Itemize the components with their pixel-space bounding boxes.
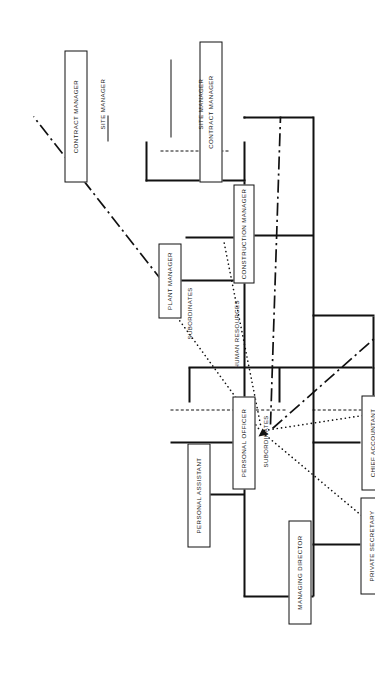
node-label: CONSTRUCTION MANAGER bbox=[240, 188, 246, 279]
functional-personal-to-chief-surveyor bbox=[272, 246, 375, 428]
node-label: PERSONAL ASSISTANT bbox=[195, 457, 201, 533]
node-label: PLANT MANAGER bbox=[166, 252, 172, 310]
functional-plant-to-contract-top bbox=[33, 116, 162, 281]
caption-site-manager-top: SITE MANAGER bbox=[99, 78, 105, 129]
node-construction-manager[interactable]: CONSTRUCTION MANAGER bbox=[233, 184, 254, 283]
node-personal-assistant[interactable]: PERSONAL ASSISTANT bbox=[187, 443, 210, 547]
node-private-secretary[interactable]: PRIVATE SECRETARY bbox=[360, 497, 375, 594]
node-label: CHIEF ACCOUNTANT bbox=[369, 408, 375, 477]
caption-subordinates-plant: SUBORDINATES bbox=[186, 287, 192, 339]
staff-to-office-managers bbox=[264, 402, 375, 430]
staff-to-chief-accountant bbox=[262, 432, 375, 541]
node-personal-officer[interactable]: PERSONAL OFFICER bbox=[232, 396, 255, 489]
node-label: MANAGING DIRECTOR bbox=[296, 535, 302, 609]
functional-personal-to-contract-bottom bbox=[270, 116, 280, 424]
caption-human-resources: HUMAN RESOURCES bbox=[233, 300, 239, 368]
node-plant-manager[interactable]: PLANT MANAGER bbox=[158, 243, 181, 318]
connector-overlay bbox=[0, 0, 375, 686]
rule-site-manager-bottom bbox=[170, 59, 171, 137]
caption-site-manager-bottom: SITE MANAGER bbox=[197, 78, 203, 129]
org-chart-canvas: MANAGING DIRECTOR PERSONAL ASSISTANT PRI… bbox=[0, 0, 375, 686]
node-label: PERSONAL OFFICER bbox=[240, 408, 246, 477]
node-label: CONTRACT MANAGER bbox=[207, 75, 213, 148]
node-label: CONTRACT MANAGER bbox=[72, 79, 78, 152]
node-managing-director[interactable]: MANAGING DIRECTOR bbox=[288, 520, 311, 624]
node-label: PRIVATE SECRETARY bbox=[368, 510, 374, 581]
caption-subordinates-personal: SUBORDINATES bbox=[262, 415, 268, 467]
node-chief-accountant[interactable]: CHIEF ACCOUNTANT bbox=[361, 395, 375, 490]
node-contract-manager-top[interactable]: CONTRACT MANAGER bbox=[64, 50, 87, 182]
